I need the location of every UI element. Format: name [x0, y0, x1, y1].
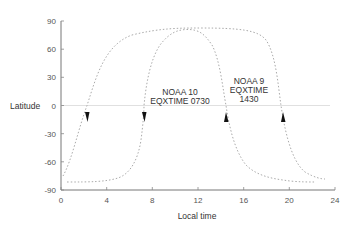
x-axis-title: Local time: [178, 211, 217, 221]
noaa10-annotation: NOAA 10 EQXTIME 0730: [150, 87, 210, 106]
arrow-down-icon: [142, 112, 147, 122]
noaa10-eqxtime: EQXTIME 0730: [150, 96, 210, 106]
y-tick-n30: -30: [44, 130, 56, 139]
noaa9-annotation: NOAA 9 EQXTIME 1430: [230, 76, 269, 104]
y-axis-title: Latitude: [10, 101, 41, 111]
arrow-up-icon: [281, 112, 286, 122]
y-tick-90: 90: [47, 17, 56, 26]
x-tick-0: 0: [59, 196, 64, 205]
x-tick-24: 24: [331, 196, 340, 205]
x-tick-8: 8: [150, 196, 155, 205]
y-tick-n90: -90: [44, 186, 56, 195]
y-tick-n60: -60: [44, 158, 56, 167]
x-tick-labels: 0 4 8 12 16 20 24: [59, 196, 340, 205]
y-tick-labels: 90 60 30 0 -30 -60 -90: [44, 17, 56, 195]
x-tick-16: 16: [239, 196, 248, 205]
x-tick-20: 20: [285, 196, 294, 205]
x-tick-12: 12: [194, 196, 203, 205]
y-tick-0: 0: [52, 102, 57, 111]
y-tick-60: 60: [47, 45, 56, 54]
latitude-local-time-chart: 90 60 30 0 -30 -60 -90 0 4 8 12 16 20 24…: [0, 0, 351, 228]
noaa9-eqxtime-value: 1430: [240, 94, 259, 104]
x-tick-4: 4: [104, 196, 109, 205]
arrow-down-icon: [85, 112, 90, 122]
y-tick-30: 30: [47, 73, 56, 82]
